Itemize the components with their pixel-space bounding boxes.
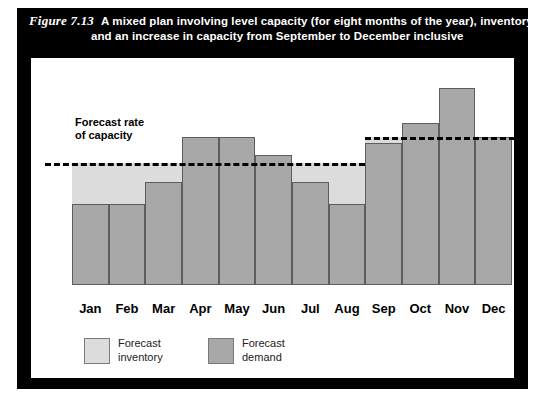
capacity-annotation-line-1: Forecast rate bbox=[75, 116, 144, 129]
inventory-band-segment bbox=[329, 163, 366, 204]
x-label-feb: Feb bbox=[109, 301, 146, 316]
bar-jun[interactable] bbox=[255, 155, 292, 285]
legend-label-line-2: demand bbox=[242, 351, 285, 365]
figure-number: Figure 7.13 bbox=[29, 13, 101, 28]
plot-area bbox=[31, 58, 514, 298]
x-label-dec: Dec bbox=[475, 301, 512, 316]
x-label-oct: Oct bbox=[402, 301, 439, 316]
chart-panel: Forecast rate of capacity JanFebMarAprMa… bbox=[31, 58, 514, 378]
x-label-nov: Nov bbox=[439, 301, 476, 316]
bar-apr[interactable] bbox=[182, 137, 219, 285]
figure-title-line-2: and an increase in capacity from Septemb… bbox=[29, 29, 518, 44]
x-label-mar: Mar bbox=[145, 301, 182, 316]
bar-jul[interactable] bbox=[292, 182, 329, 285]
bar-mar[interactable] bbox=[145, 182, 182, 285]
x-label-apr: Apr bbox=[182, 301, 219, 316]
figure-frame: Figure 7.13A mixed plan involving level … bbox=[17, 8, 528, 389]
bar-sep[interactable] bbox=[365, 143, 402, 285]
chart-legend: ForecastinventoryForecastdemand bbox=[58, 336, 478, 376]
x-label-may: May bbox=[219, 301, 256, 316]
bar-nov[interactable] bbox=[439, 88, 476, 285]
capacity-annotation-line-2: of capacity bbox=[75, 129, 144, 142]
legend-label-line-1: Forecast bbox=[242, 337, 285, 351]
inventory-band-segment bbox=[72, 163, 109, 204]
legend-swatch-icon bbox=[84, 338, 110, 364]
legend-swatch-icon bbox=[208, 338, 234, 364]
bar-feb[interactable] bbox=[109, 204, 146, 285]
x-axis-month-labels: JanFebMarAprMayJunJulAugSepOctNovDec bbox=[31, 301, 514, 323]
bar-dec[interactable] bbox=[475, 137, 512, 285]
figure-title-text-1: A mixed plan involving level capacity (f… bbox=[101, 15, 533, 27]
inventory-band-segment bbox=[109, 163, 146, 204]
x-label-jun: Jun bbox=[255, 301, 292, 316]
x-label-sep: Sep bbox=[365, 301, 402, 316]
legend-label: Forecastdemand bbox=[242, 337, 285, 364]
bar-oct[interactable] bbox=[402, 123, 439, 285]
figure-container: Figure 7.13A mixed plan involving level … bbox=[0, 0, 545, 399]
capacity-line-segment-1 bbox=[45, 163, 365, 166]
x-label-jan: Jan bbox=[72, 301, 109, 316]
bar-aug[interactable] bbox=[329, 204, 366, 285]
capacity-line-segment-2 bbox=[365, 137, 524, 140]
x-label-aug: Aug bbox=[329, 301, 366, 316]
figure-title-line-1: Figure 7.13A mixed plan involving level … bbox=[29, 14, 518, 29]
figure-title-bar: Figure 7.13A mixed plan involving level … bbox=[17, 8, 528, 54]
legend-label-line-2: inventory bbox=[118, 351, 163, 365]
capacity-annotation: Forecast rate of capacity bbox=[75, 116, 144, 142]
x-label-jul: Jul bbox=[292, 301, 329, 316]
bar-jan[interactable] bbox=[72, 204, 109, 285]
legend-label-line-1: Forecast bbox=[118, 337, 163, 351]
bar-may[interactable] bbox=[219, 137, 256, 285]
legend-label: Forecastinventory bbox=[118, 337, 163, 364]
